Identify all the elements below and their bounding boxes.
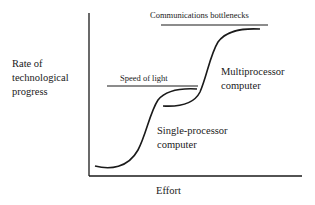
label-line: Single-processor: [157, 124, 257, 138]
x-axis-label: Effort: [156, 185, 181, 197]
y-axis-label-line: technological: [12, 71, 87, 85]
diagram-canvas: [0, 0, 315, 205]
multiprocessor-curve-label: Multiprocessor computer: [221, 65, 311, 92]
y-axis-label: Rate of technological progress: [12, 57, 87, 99]
communications-bottleneck-label: Communications bottlenecks: [150, 11, 249, 21]
label-line: computer: [221, 79, 311, 93]
y-axis-label-line: Rate of: [12, 57, 87, 71]
label-line: computer: [157, 138, 257, 152]
y-axis-label-line: progress: [12, 85, 87, 99]
label-line: Multiprocessor: [221, 65, 311, 79]
speed-of-light-label: Speed of light: [120, 74, 168, 84]
single-processor-curve-label: Single-processor computer: [157, 124, 257, 151]
